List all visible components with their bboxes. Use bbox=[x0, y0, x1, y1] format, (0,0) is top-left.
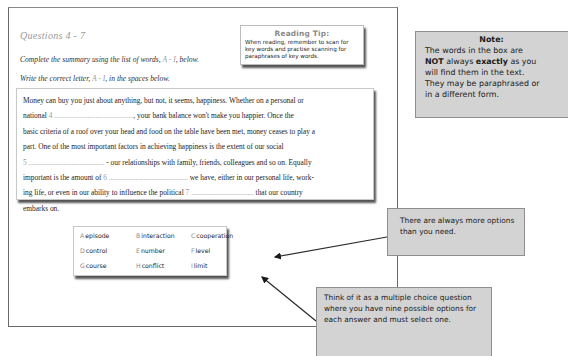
option-d[interactable]: Dcontrol bbox=[80, 247, 107, 254]
option-word: conflict bbox=[142, 262, 165, 269]
note-line: in a different form. bbox=[425, 90, 568, 101]
passage-line: 5 ......................................… bbox=[23, 155, 367, 170]
option-e[interactable]: Enumber bbox=[136, 247, 165, 254]
option-word: interaction bbox=[141, 232, 174, 239]
gap-5-blank[interactable]: ........................................… bbox=[29, 158, 105, 167]
letter-range: A - I bbox=[92, 74, 105, 83]
instruction-write-letter: Write the correct letter, A - I, in the … bbox=[20, 74, 170, 83]
option-c[interactable]: Ccooperation bbox=[191, 232, 233, 239]
callout-multiple-choice: Think of it as a multiple choice questio… bbox=[316, 287, 492, 356]
passage-line: important is the amount of 6 ...........… bbox=[23, 170, 367, 185]
option-g[interactable]: Gcourse bbox=[80, 262, 106, 269]
option-letter: I bbox=[191, 262, 193, 269]
note-line: NOT always exactly as you bbox=[425, 57, 568, 68]
option-letter: H bbox=[136, 262, 141, 269]
letter-range: A - I bbox=[162, 55, 175, 64]
option-word: course bbox=[86, 262, 107, 269]
questions-heading: Questions 4 - 7 bbox=[20, 30, 85, 41]
reading-tip-box: Reading Tip: When reading, remember to s… bbox=[240, 25, 364, 65]
option-b[interactable]: Binteraction bbox=[136, 232, 175, 239]
option-i[interactable]: Ilimit bbox=[191, 262, 207, 269]
option-letter: E bbox=[136, 247, 140, 254]
note-text: always bbox=[444, 57, 476, 66]
passage-line: national 4 .............................… bbox=[23, 108, 367, 123]
summary-passage: Money can buy you just about anything, b… bbox=[16, 88, 374, 200]
option-letter: F bbox=[191, 247, 195, 254]
passage-line: embarks on. bbox=[23, 201, 367, 216]
note-line: The words in the box are bbox=[425, 46, 568, 57]
passage-text: that our country bbox=[254, 188, 303, 197]
option-word: number bbox=[141, 247, 165, 254]
note-line: They may be paraphrased or bbox=[425, 79, 568, 90]
gap-6-blank[interactable]: ........................................… bbox=[109, 173, 188, 182]
passage-text: important is the amount of bbox=[23, 173, 103, 182]
reading-tip-title: Reading Tip: bbox=[241, 29, 363, 38]
option-letter: D bbox=[80, 247, 85, 254]
gap-7-number: 7 bbox=[186, 188, 190, 197]
instruction-text: Write the correct letter, bbox=[20, 74, 92, 83]
passage-text: - our relationships with family, friends… bbox=[104, 158, 311, 167]
passage-line: part. One of the most important factors … bbox=[23, 139, 367, 154]
passage-line: ing life, or even in our ability to infl… bbox=[23, 185, 367, 200]
option-word: episode bbox=[85, 232, 109, 239]
option-letter: G bbox=[80, 262, 85, 269]
option-word: cooperation bbox=[196, 232, 233, 239]
gap-7-blank[interactable]: ...................................... bbox=[191, 188, 254, 197]
callout-more-options: There are always more options than you n… bbox=[387, 208, 525, 256]
instruction-complete-summary: Complete the summary using the list of w… bbox=[20, 55, 199, 64]
instruction-text: Complete the summary using the list of w… bbox=[20, 55, 162, 64]
option-word: level bbox=[196, 247, 211, 254]
option-letter: C bbox=[191, 232, 195, 239]
passage-text: national bbox=[23, 111, 49, 120]
passage-text: , your bank balance won't make you happi… bbox=[133, 111, 293, 120]
gap-5-number: 5 bbox=[23, 158, 27, 167]
passage-text: ing life, or even in our ability to infl… bbox=[23, 188, 186, 197]
note-text: as you bbox=[508, 57, 536, 66]
gap-6-number: 6 bbox=[103, 173, 107, 182]
passage-line: basic criteria of a roof over your head … bbox=[23, 124, 367, 139]
note-emphasis-not: NOT bbox=[425, 57, 444, 66]
instruction-text: , below. bbox=[176, 55, 199, 64]
gap-4-blank[interactable]: ........................................… bbox=[54, 111, 133, 120]
passage-text: we have, either in our personal life, wo… bbox=[188, 173, 314, 182]
note-emphasis-exactly: exactly bbox=[476, 57, 508, 66]
option-word: control bbox=[86, 247, 107, 254]
option-a[interactable]: Aepisode bbox=[80, 232, 109, 239]
option-f[interactable]: Flevel bbox=[191, 247, 210, 254]
passage-line: Money can buy you just about anything, b… bbox=[23, 93, 367, 108]
instruction-text: , in the spaces below. bbox=[105, 74, 169, 83]
note-line: will find them in the text. bbox=[425, 68, 568, 79]
note-title: Note: bbox=[425, 35, 568, 46]
gap-4-number: 4 bbox=[49, 111, 53, 120]
option-h[interactable]: Hconflict bbox=[136, 262, 164, 269]
reading-tip-body: When reading, remember to scan for key w… bbox=[241, 39, 363, 61]
note-box: Note: The words in the box are NOT alway… bbox=[415, 31, 568, 118]
option-letter: A bbox=[80, 232, 84, 239]
word-options-box: Aepisode Binteraction Ccooperation Dcont… bbox=[73, 226, 227, 276]
option-letter: B bbox=[136, 232, 140, 239]
option-word: limit bbox=[194, 262, 208, 269]
